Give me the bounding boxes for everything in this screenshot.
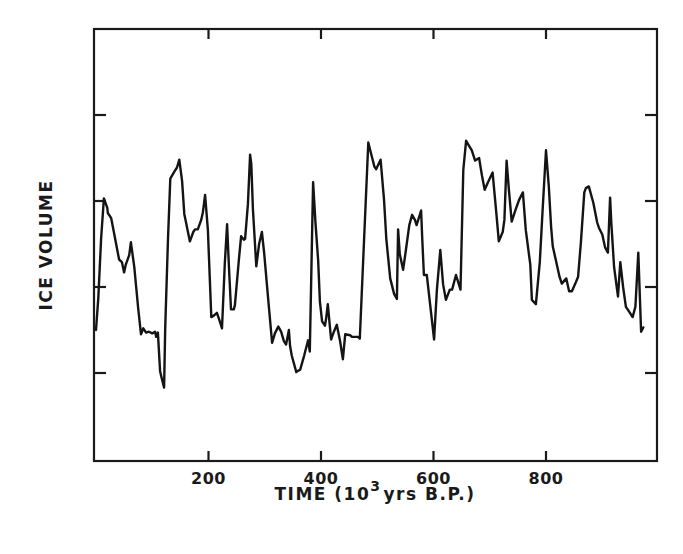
ice-volume-chart: 200400600800 TIME (103yrs B.P.) ICE VOLU… [0, 0, 683, 554]
y-axis-label: ICE VOLUME [36, 179, 56, 310]
x-tick-label-800: 800 [529, 469, 564, 488]
x-tick-label-200: 200 [191, 469, 226, 488]
y-axis-ticks [94, 115, 657, 373]
plot-frame [94, 29, 657, 461]
ice-volume-series-line [96, 141, 643, 388]
